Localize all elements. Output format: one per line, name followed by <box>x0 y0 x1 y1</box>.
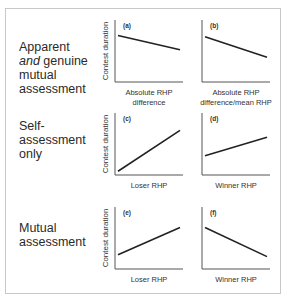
x-axis-label: Absolute RHP <box>125 88 172 97</box>
panel-label: (b) <box>210 22 218 30</box>
y-axis-label: Contest duration <box>101 22 110 81</box>
x-axis-label: Winner RHP <box>215 275 257 284</box>
trend-line <box>205 137 267 156</box>
y-axis-label: Contest duration <box>101 115 110 174</box>
trend-line <box>118 130 180 171</box>
y-axis-label: Contest duration <box>101 209 110 268</box>
x-axis-label: Loser RHP <box>131 275 168 284</box>
panel-label: (f) <box>210 209 217 217</box>
x-axis-label: Winner RHP <box>215 181 257 190</box>
x-axis-label: Loser RHP <box>131 181 168 190</box>
trend-line <box>205 37 267 57</box>
trend-line <box>118 227 180 254</box>
x-axis-label: difference <box>133 98 166 107</box>
panels-chart: (a)Absolute RHPdifferenceContest duratio… <box>0 0 288 303</box>
panel-label: (a) <box>123 22 131 30</box>
x-axis-label: difference/mean RHP <box>200 98 272 107</box>
panel-label: (c) <box>123 115 131 123</box>
panel-label: (d) <box>210 115 218 123</box>
trend-line <box>205 227 267 256</box>
panel-label: (e) <box>123 209 131 217</box>
trend-line <box>118 36 180 50</box>
x-axis-label: Absolute RHP <box>212 88 259 97</box>
